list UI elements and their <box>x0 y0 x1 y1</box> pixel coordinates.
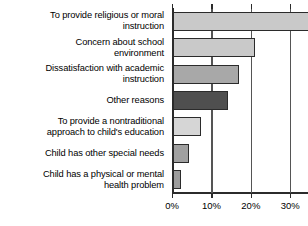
x-axis-tick <box>211 193 212 198</box>
category-label: To provide religious or moral instructio… <box>0 10 164 32</box>
x-axis-tick <box>172 4 173 9</box>
chart-screenshot: To provide religious or moral instructio… <box>0 0 308 226</box>
bar <box>173 144 189 163</box>
gridline <box>251 8 252 193</box>
x-tick-label: 20% <box>241 200 260 211</box>
x-tick-label: 10% <box>202 200 221 211</box>
category-label: Dissatisfaction with academic instructio… <box>0 63 164 85</box>
x-axis-tick <box>211 4 212 9</box>
x-axis-tick <box>172 193 173 198</box>
x-tick-label: 30% <box>281 200 300 211</box>
category-label-column: To provide religious or moral instructio… <box>0 8 168 193</box>
plot-area: 0%10%20%30% <box>172 8 308 193</box>
category-label: Child has a physical or mental health pr… <box>0 169 164 191</box>
bar <box>173 91 228 110</box>
bar <box>173 170 181 189</box>
x-axis-line <box>172 192 308 194</box>
x-tick-label: 0% <box>165 200 179 211</box>
category-label: Concern about school environment <box>0 37 164 59</box>
horizontal-bar-chart: To provide religious or moral instructio… <box>0 0 308 226</box>
category-label: Other reasons <box>0 95 164 106</box>
bar <box>173 12 308 31</box>
bar <box>173 38 255 57</box>
bar <box>173 117 201 136</box>
category-label: To provide a nontraditional approach to … <box>0 116 164 138</box>
x-axis-tick <box>290 193 291 198</box>
gridline <box>290 8 291 193</box>
x-axis-tick <box>290 4 291 9</box>
x-axis-tick <box>251 193 252 198</box>
x-axis-tick <box>251 4 252 9</box>
category-label: Child has other special needs <box>0 148 164 159</box>
bar <box>173 65 239 84</box>
